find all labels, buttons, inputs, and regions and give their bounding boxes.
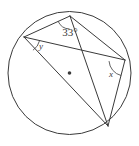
angle-x-label: x (108, 69, 113, 79)
diameter-left-bottom (24, 37, 108, 126)
angle-y-label: y (38, 41, 43, 51)
angle-label-layer: 33°yx (38, 26, 113, 79)
angle-33-degrees-label: 33° (62, 26, 77, 38)
center-dot (68, 71, 72, 75)
center-dot-layer (68, 71, 72, 75)
geometry-diagram: 33°yx (0, 0, 139, 146)
circle-diagram-svg: 33°yx (0, 0, 139, 146)
